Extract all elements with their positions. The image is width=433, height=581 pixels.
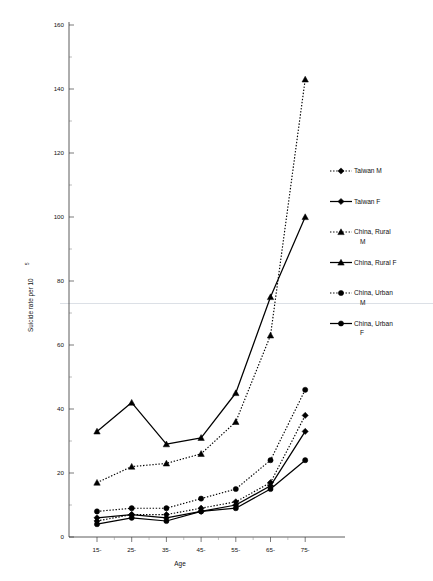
data-point (303, 458, 308, 463)
x-tick-label: 25- (127, 546, 136, 553)
y-tick-label: 160 (54, 21, 65, 28)
y-tick-label: 100 (54, 213, 65, 220)
data-point (94, 509, 99, 514)
y-tick-label: 40 (57, 405, 64, 412)
data-point (94, 522, 99, 527)
data-point (268, 458, 273, 463)
suicide-rate-line-chart: Suicide rate per 10 5 020406080100120140… (0, 0, 433, 581)
legend-marker (338, 321, 343, 326)
y-tick-label: 60 (57, 341, 64, 348)
legend-label: Taiwan M (354, 167, 382, 174)
legend-label-line2: M (360, 299, 366, 306)
x-axis-title: Age (174, 560, 186, 568)
data-point (129, 506, 134, 511)
x-tick-label: 15- (93, 546, 102, 553)
x-tick-label: 45- (197, 546, 206, 553)
data-point (129, 515, 134, 520)
y-tick-label: 20 (57, 469, 64, 476)
legend-label: China, Rural (354, 228, 391, 235)
data-point (199, 496, 204, 501)
legend-label: China, Urban (354, 320, 393, 327)
y-tick-label: 80 (57, 277, 64, 284)
y-axis-title-exponent: 5 (25, 262, 30, 265)
data-point (233, 506, 238, 511)
data-point (164, 506, 169, 511)
y-tick-label: 0 (61, 533, 65, 540)
x-tick-label: 55- (231, 546, 240, 553)
chart-canvas: Suicide rate per 10 5 020406080100120140… (0, 0, 433, 581)
y-tick-label: 140 (54, 85, 65, 92)
legend-marker (338, 290, 343, 295)
data-point (268, 486, 273, 491)
legend-label-line2: F (360, 329, 364, 336)
data-point (303, 387, 308, 392)
x-tick-label: 65- (266, 546, 275, 553)
data-point (199, 509, 204, 514)
x-tick-label: 75- (301, 546, 310, 553)
y-tick-label: 120 (54, 149, 65, 156)
legend-label: Taiwan F (354, 198, 380, 205)
legend-label-line2: M (360, 238, 366, 245)
x-tick-label: 35- (162, 546, 171, 553)
y-axis-title-text: Suicide rate per 10 (27, 278, 35, 332)
legend-label: China, Rural F (354, 259, 397, 266)
data-point (164, 518, 169, 523)
legend-label: China, Urban (354, 289, 393, 296)
data-point (233, 486, 238, 491)
